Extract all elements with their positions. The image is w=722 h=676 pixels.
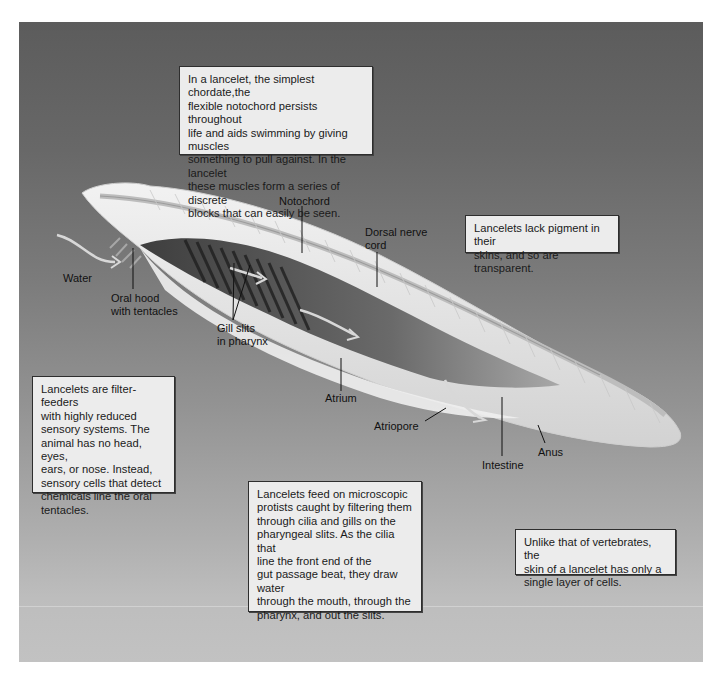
notochord-note: In a lancelet, the simplest chordate,the… [179,66,373,155]
filter-feeder-note: Lancelets are filter-feeders with highly… [32,376,175,493]
diagram-frame: In a lancelet, the simplest chordate,the… [19,22,703,662]
label-water: Water [63,272,92,285]
label-anus: Anus [538,446,563,459]
label-notochord: Notochord [279,195,330,208]
pigment-note: Lancelets lack pigment in their skins, a… [465,215,619,253]
label-atriopore: Atriopore [374,420,419,433]
label-oral-hood: Oral hood with tentacles [111,292,178,317]
label-gill-slits: Gill slits in pharynx [217,322,268,347]
label-atrium: Atrium [325,392,357,405]
label-dorsal-nerve-cord: Dorsal nerve cord [365,226,427,251]
label-intestine: Intestine [482,459,524,472]
skin-note: Unlike that of vertebrates, the skin of … [515,529,676,575]
feeding-note: Lancelets feed on microscopic protists c… [248,481,422,612]
